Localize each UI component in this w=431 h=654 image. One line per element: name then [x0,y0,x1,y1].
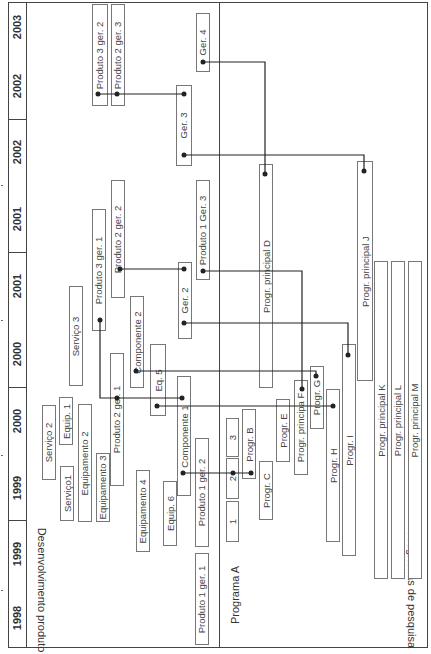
year-label-2002b: 2002 [8,52,27,119]
box-equip-6: Equip. 6 [163,481,177,546]
box-produto-2-ger-1: Produto 2 ger. 1 [110,353,124,486]
box-componente-2: Componente 2 [130,296,144,388]
section-label-product-dev: Desenvolvimento produto [30,540,54,640]
box-equipamento-2: Equipamento 2 [78,404,92,522]
box-program-1: 1 [226,501,239,542]
box-eq-5: Eq. 5 [150,344,166,416]
year-separator [8,119,27,120]
box-progr-i: Progr. I [342,344,356,556]
box-componente-1: Componente 1 [177,376,191,496]
box-servico-2: Serviço 2 [42,405,56,480]
box-produto-2-ger-3: Produto 2 ger. 3 [111,4,125,106]
year-label-1999a: 1999 [8,520,27,587]
label-programa-a: Programa A [228,550,242,640]
year-label-2003: 2003 [8,2,27,52]
box-ger-2: Ger. 2 [178,262,192,339]
year-label-2000a: 2000 [8,387,27,455]
box-equipamento-3: Equipamento 3 [96,453,110,522]
section-divider [219,2,220,648]
box-servico-3: Serviço 3 [69,286,83,386]
year-separator [8,520,27,521]
box-produto-3-ger-1: Produto 3 ger. 1 [92,209,106,331]
box-progr-principal-l: Progr. principal L [391,261,405,579]
year-separator [8,252,27,253]
year-label-1998: 1998 [8,587,27,648]
year-separator [8,387,27,388]
box-progr-g: Progr. G [310,366,324,429]
box-progr-e: Progr. E [276,399,290,462]
box-produto-1-ger-2: Produto 1 ger. 2 [195,438,209,547]
box-equipamento-4: Equipamento 4 [136,470,150,552]
year-label-2001a: 2001 [8,252,27,320]
box-progr-b: Progr. B [242,409,256,479]
year-label-2000b: 2000 [8,320,27,387]
tick-mark [1,320,3,321]
box-servico-1: Serviço1 [60,466,74,521]
tick-mark [1,455,3,456]
box-progr-principal-m: Progr. principal M [408,261,422,579]
year-label-2002a: 2002 [8,119,27,185]
box-progr-principal-j: Progr. principal J [357,161,373,381]
box-program-3: 3 [226,418,239,457]
box-progr-principal-k: Progr. principal K [374,261,388,579]
box-produto-2-ger-2: Produto 2 ger. 2 [111,180,125,298]
box-progr-c: Progr. C [259,461,273,520]
tick-mark [1,185,3,186]
box-produto-1-ger-3: Produto 1 Ger. 3 [196,180,210,280]
box-program-2: 2 [226,458,239,499]
box-ger-4: Ger. 4 [196,13,210,72]
box-progr-principal-f: Progr. principa F [294,380,308,475]
box-produto-3-ger-2: Produto 3 ger. 2 [92,4,108,106]
box-ger-3: Ger. 3 [176,85,192,166]
year-label-2001b: 2001 [8,185,27,252]
box-equip-1: Equip. 1 [59,397,73,445]
year-label-1999b: 1999 [8,455,27,520]
box-progr-principal-d: Progr. principal D [259,164,273,388]
box-progr-h: Progr. H [326,389,340,542]
box-produto-1-ger-1: Produto 1 ger. 1 [195,553,209,645]
tick-mark [1,590,3,591]
